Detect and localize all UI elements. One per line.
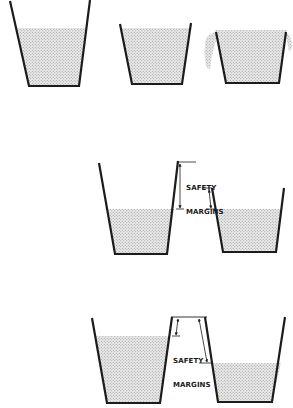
cup-1	[10, 0, 90, 86]
safety-margins-label-row-3: SAFETY MARGINS	[173, 341, 211, 397]
row-1	[10, 0, 292, 86]
cup-3	[205, 30, 292, 83]
label-line-2: MARGINS	[173, 381, 211, 389]
margin-arrow-left	[176, 319, 178, 335]
cup-5-liquid	[217, 209, 281, 252]
cup-4-liquid	[108, 209, 174, 254]
safety-margins-label-row-2: SAFETY MARGINS	[186, 168, 224, 224]
cup-6-liquid	[96, 336, 170, 403]
cup-7	[205, 317, 285, 402]
cup-3-spill-left	[205, 32, 216, 69]
cup-2	[120, 23, 191, 84]
cup-4	[99, 161, 178, 254]
cups-safety-margin-diagram	[0, 0, 293, 408]
cup-6	[92, 317, 172, 403]
label-line-1: SAFETY	[173, 357, 211, 365]
label-line-2: MARGINS	[186, 208, 224, 216]
label-line-1: SAFETY	[186, 184, 224, 192]
cup-7-liquid	[213, 363, 281, 402]
